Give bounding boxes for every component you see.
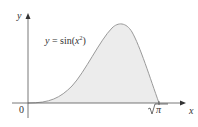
equation-label: y = sin(x2) bbox=[44, 35, 86, 47]
labels: y x 0 π y = sin(x2) bbox=[0, 0, 198, 127]
x-axis-label: x bbox=[188, 105, 194, 116]
y-axis-label: y bbox=[16, 10, 22, 21]
svg-text:π: π bbox=[156, 104, 162, 115]
origin-label: 0 bbox=[19, 104, 24, 115]
sqrt-pi-label: π bbox=[148, 104, 168, 115]
